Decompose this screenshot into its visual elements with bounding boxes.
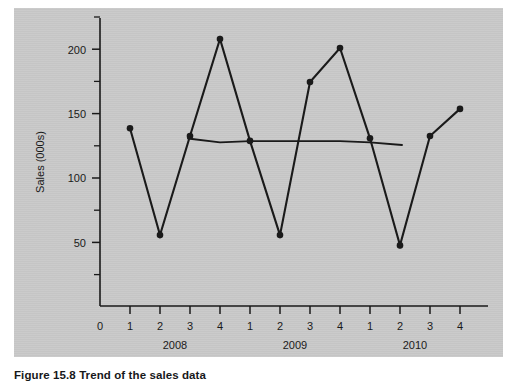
data-point-2010-q3 [427, 133, 434, 140]
y-tick-label-150: 150 [68, 108, 86, 120]
x-tick-label-1: 2 [157, 320, 163, 332]
y-tick-label-200: 200 [68, 44, 86, 56]
y-tick-label-50: 50 [74, 237, 86, 249]
x-tick-label-7: 4 [337, 320, 343, 332]
data-point-2009-q4 [337, 45, 344, 52]
data-point-2009-q3 [307, 79, 314, 86]
figure-container: 200 150 100 50 Sales (000s) 0 1 2 3 4 1 … [0, 0, 517, 384]
data-point-2010-q2 [397, 242, 404, 249]
y-axis-minor-ticks [94, 17, 100, 275]
data-point-2008-q1 [127, 125, 134, 132]
data-point-2008-q4 [217, 36, 224, 43]
x-group-label-2008: 2008 [163, 339, 187, 351]
x-tick-label-8: 1 [367, 320, 373, 332]
x-group-label-2010: 2010 [403, 339, 427, 351]
figure-caption-text: Trend of the sales data [79, 369, 206, 381]
data-point-2010-q1 [367, 135, 374, 142]
x-tick-label-3: 4 [217, 320, 223, 332]
sales-series-line [130, 39, 460, 245]
data-point-2009-q2 [277, 232, 284, 239]
sales-series-markers [127, 36, 464, 249]
y-axis-title: Sales (000s) [34, 131, 46, 193]
x-tick-label-origin: 0 [97, 320, 103, 332]
data-point-2010-q4 [457, 106, 464, 113]
x-tick-label-6: 3 [307, 320, 313, 332]
y-tick-label-100: 100 [68, 172, 86, 184]
x-tick-label-4: 1 [247, 320, 253, 332]
x-group-label-2009: 2009 [283, 339, 307, 351]
x-tick-label-11: 4 [457, 320, 463, 332]
x-tick-label-0: 1 [127, 320, 133, 332]
x-tick-label-2: 3 [187, 320, 193, 332]
figure-caption: Figure 15.8 Trend of the sales data [14, 369, 206, 381]
x-tick-label-5: 2 [277, 320, 283, 332]
sales-trend-line-chart: 200 150 100 50 Sales (000s) 0 1 2 3 4 1 … [14, 8, 503, 357]
x-tick-label-9: 2 [397, 320, 403, 332]
x-axis-ticks [130, 306, 460, 314]
x-tick-label-10: 3 [427, 320, 433, 332]
figure-caption-number: Figure 15.8 [14, 369, 76, 381]
data-point-2008-q2 [157, 232, 164, 239]
